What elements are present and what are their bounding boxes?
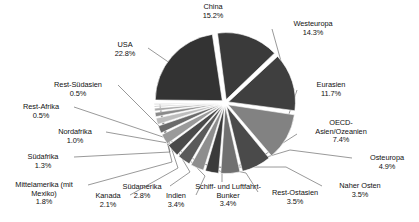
- slice-label-value: 3.4%: [154, 201, 198, 210]
- slice-label-value: 0.5%: [10, 112, 72, 121]
- pie-slices-group: [154, 33, 295, 174]
- slice-label-value: 3.5%: [324, 191, 396, 200]
- slice-label-value: 0.5%: [40, 90, 116, 99]
- slice-label-rest-afrika: Rest-Afrika 0.5%: [10, 103, 72, 120]
- slice-label-osteuropa: Osteuropa 4.9%: [355, 154, 419, 171]
- pie-slice: [155, 34, 222, 100]
- slice-label-china: China 15.2%: [183, 3, 243, 20]
- slice-label-usa: USA 22.8%: [103, 41, 147, 58]
- slice-label-value: 2.1%: [85, 201, 131, 210]
- slice-label-westeuropa: Westeuropa 14.3%: [276, 20, 350, 37]
- slice-label-mittelamerika: Mittelamerika (mit Mexiko) 1.8%: [2, 181, 86, 207]
- slice-label-value: 22.8%: [103, 50, 147, 59]
- slice-label-value: 4.9%: [355, 163, 419, 172]
- slice-label-value: 1.3%: [14, 162, 72, 171]
- slice-label-value: 1.0%: [44, 137, 106, 146]
- slice-label-value: 1.8%: [2, 198, 86, 207]
- slice-label-oecd-asien-ozeanien: OECD- Asien/Ozeanien 7.4%: [300, 119, 382, 145]
- slice-label-suedafrika: Südafrika 1.3%: [14, 153, 72, 170]
- slice-label-naher-osten: Naher Osten 3.5%: [324, 182, 396, 199]
- slice-label-rest-suedasien: Rest-Südasien 0.5%: [40, 81, 116, 98]
- slice-label-value: 15.2%: [183, 12, 243, 21]
- slice-label-nordafrika: Nordafrika 1.0%: [44, 128, 106, 145]
- slice-label-value: 7.4%: [300, 136, 382, 145]
- slice-label-eurasien: Eurasien 11.7%: [300, 81, 362, 98]
- pie-chart-figure: China 15.2% Westeuropa 14.3% Eurasien 11…: [0, 0, 419, 222]
- slice-label-value: 11.7%: [300, 90, 362, 99]
- slice-label-kanada: Kanada 2.1%: [85, 192, 131, 209]
- slice-label-value: 14.3%: [276, 29, 350, 38]
